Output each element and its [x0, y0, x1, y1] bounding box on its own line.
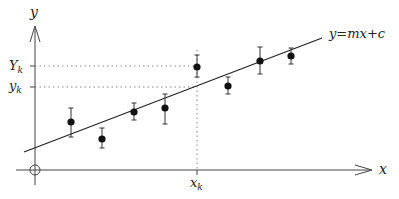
data-point-marker	[130, 108, 137, 115]
data-point	[256, 47, 263, 74]
data-point-marker	[67, 118, 74, 125]
data-point-marker	[224, 82, 231, 89]
data-point-marker	[98, 135, 105, 142]
data-point	[224, 77, 231, 94]
data-point-marker	[193, 63, 200, 70]
data-point-marker	[287, 52, 294, 59]
x-axis-label: x	[379, 161, 387, 177]
data-point-marker	[256, 57, 263, 64]
xk-label: xk	[190, 175, 203, 192]
data-point	[98, 128, 105, 148]
data-point	[130, 103, 137, 120]
data-point-marker	[161, 104, 168, 111]
fit-line-label: y=mx+c	[328, 26, 386, 41]
fit-line	[24, 38, 322, 152]
y-axis-label: y	[29, 4, 39, 20]
Yk-label: Yk	[9, 58, 23, 75]
yk-label: yk	[8, 78, 22, 95]
regression-diagram: y x Yk yk xk y=mx+c	[0, 0, 399, 199]
data-points	[67, 47, 294, 148]
data-point	[193, 55, 200, 77]
